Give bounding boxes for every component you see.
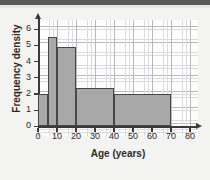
x-tick-label-30: 30 <box>86 132 104 141</box>
x-axis-line <box>38 126 198 128</box>
y-tick-3 <box>34 77 39 78</box>
histogram-bar <box>57 47 76 126</box>
x-tick-label-70: 70 <box>162 132 180 141</box>
histogram-bar <box>114 94 171 126</box>
histogram-bar <box>76 88 114 127</box>
x-tick-label-50: 50 <box>124 132 142 141</box>
x-tick-label-40: 40 <box>105 132 123 141</box>
histogram-figure: 0123456 01020304050607080 Age (years) Fr… <box>0 8 210 180</box>
y-tick-4 <box>34 61 39 62</box>
y-tick-5 <box>34 45 39 46</box>
y-tick-6 <box>34 29 39 30</box>
histogram-bar <box>48 37 58 126</box>
chart-screenshot: 0123456 01020304050607080 Age (years) Fr… <box>0 0 210 180</box>
x-tick-label-60: 60 <box>143 132 161 141</box>
y-axis-title: Frequency density <box>11 9 22 129</box>
x-tick-label-0: 0 <box>29 132 47 141</box>
y-axis-arrowhead-icon <box>35 13 41 19</box>
x-axis-arrowhead-icon <box>196 123 202 129</box>
x-axis-title: Age (years) <box>38 148 198 159</box>
x-tick-label-80: 80 <box>181 132 199 141</box>
x-tick-label-20: 20 <box>67 132 85 141</box>
histogram-bar <box>38 94 48 126</box>
x-tick-label-10: 10 <box>48 132 66 141</box>
